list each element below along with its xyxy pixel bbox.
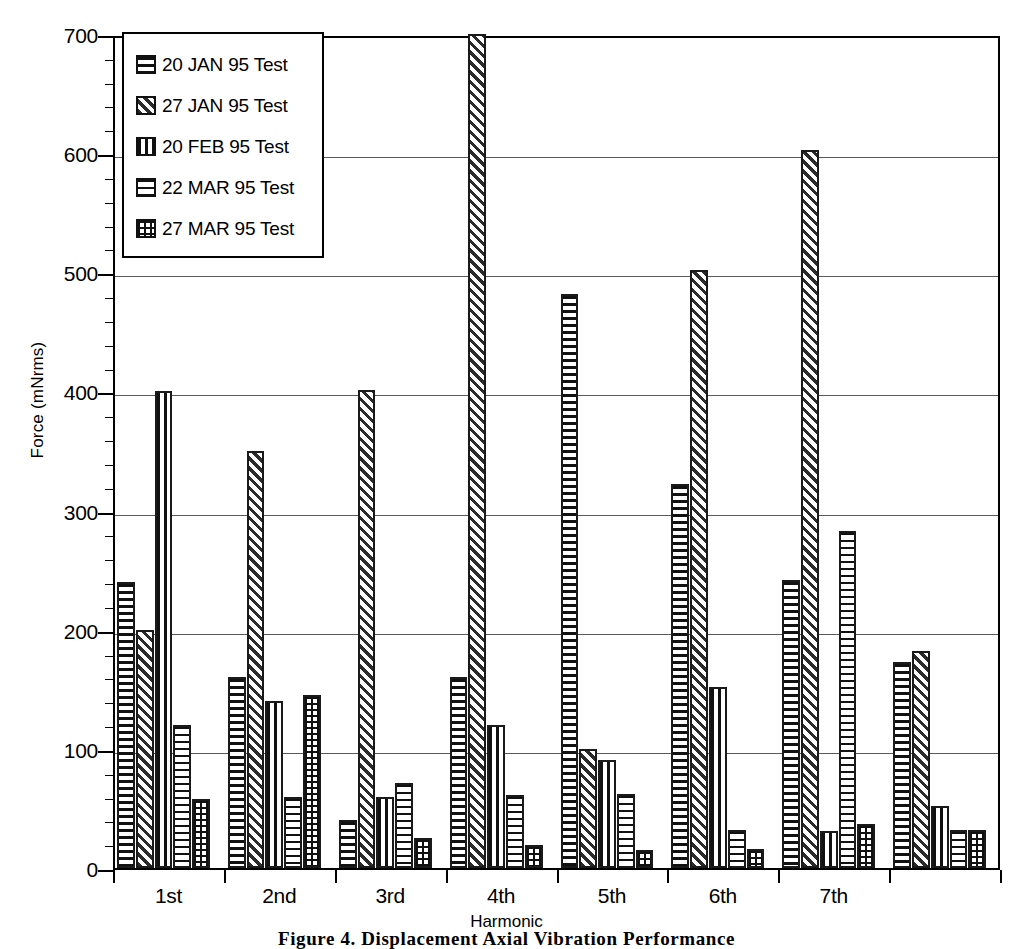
y-tick-label: 700	[40, 25, 98, 46]
legend-label: 27 MAR 95 Test	[162, 218, 294, 240]
bar	[339, 820, 357, 868]
x-tick-mark	[113, 870, 115, 883]
x-tick-label: 5th	[567, 884, 657, 908]
y-axis-tick-labels: 0100200300400500600700	[36, 0, 98, 949]
y-tick-minor	[105, 656, 113, 657]
bar-group	[561, 38, 655, 868]
bar	[450, 677, 468, 868]
y-tick-minor	[105, 822, 113, 823]
bar	[579, 749, 597, 868]
y-tick-minor	[105, 250, 113, 251]
y-tick-label: 500	[40, 263, 98, 284]
x-tick-label: 2nd	[234, 884, 324, 908]
bar	[617, 794, 635, 868]
y-tick-minor	[105, 489, 113, 490]
x-tick-label: 3rd	[345, 884, 435, 908]
legend-swatch-icon	[136, 219, 156, 238]
bar	[284, 797, 302, 868]
y-tick-minor	[105, 703, 113, 704]
y-tick-minor	[105, 536, 113, 537]
y-tick-label: 100	[40, 740, 98, 761]
y-tick-major	[98, 632, 113, 634]
legend-label: 27 JAN 95 Test	[162, 95, 288, 117]
x-tick-label: 4th	[456, 884, 546, 908]
y-tick-minor	[105, 584, 113, 585]
y-tick-minor	[105, 203, 113, 204]
legend-item: 20 JAN 95 Test	[136, 44, 322, 85]
y-tick-minor	[105, 846, 113, 847]
bar	[950, 830, 968, 868]
bar	[912, 651, 930, 868]
y-tick-minor	[105, 465, 113, 466]
legend-item: 27 JAN 95 Test	[136, 85, 322, 126]
y-tick-label: 300	[40, 502, 98, 523]
x-tick-mark	[778, 870, 780, 883]
bar	[525, 845, 543, 868]
legend-swatch-icon	[136, 96, 156, 115]
bar-group	[339, 38, 433, 868]
bar	[820, 831, 838, 868]
y-tick-major	[98, 155, 113, 157]
bar	[414, 838, 432, 868]
y-tick-minor	[105, 560, 113, 561]
legend-item: 20 FEB 95 Test	[136, 126, 322, 167]
bar	[709, 687, 727, 868]
y-tick-label: 600	[40, 144, 98, 165]
figure-container: Force (mNrms) 0100200300400500600700 1st…	[0, 0, 1013, 949]
y-tick-minor	[105, 179, 113, 180]
bar	[857, 824, 875, 868]
y-tick-minor	[105, 107, 113, 108]
legend-label: 22 MAR 95 Test	[162, 177, 294, 199]
x-tick-mark	[446, 870, 448, 883]
y-tick-major	[98, 274, 113, 276]
y-tick-minor	[105, 608, 113, 609]
x-tick-mark	[1000, 870, 1002, 883]
bar	[728, 830, 746, 868]
bar	[839, 531, 857, 868]
y-tick-minor	[105, 84, 113, 85]
y-tick-major	[98, 513, 113, 515]
y-tick-label: 400	[40, 382, 98, 403]
legend-swatch-icon	[136, 178, 156, 197]
bar	[487, 725, 505, 868]
legend-swatch-icon	[136, 137, 156, 156]
bar	[265, 701, 283, 868]
bar	[598, 760, 616, 868]
bar	[228, 677, 246, 868]
y-tick-minor	[105, 298, 113, 299]
y-tick-minor	[105, 227, 113, 228]
x-tick-label: 1st	[123, 884, 213, 908]
bar	[247, 451, 265, 868]
bar	[801, 150, 819, 868]
bar	[968, 830, 986, 868]
y-tick-major	[98, 870, 113, 872]
chart-legend: 20 JAN 95 Test27 JAN 95 Test20 FEB 95 Te…	[122, 32, 324, 258]
bar	[303, 695, 321, 868]
bar	[782, 580, 800, 868]
bar	[395, 783, 413, 868]
x-tick-label: 6th	[678, 884, 768, 908]
legend-swatch-icon	[136, 55, 156, 74]
y-tick-minor	[105, 775, 113, 776]
legend-label: 20 FEB 95 Test	[162, 136, 289, 158]
bar	[376, 797, 394, 868]
bar	[561, 294, 579, 868]
y-tick-label: 0	[40, 859, 98, 880]
bar	[931, 806, 949, 868]
y-tick-minor	[105, 679, 113, 680]
bar-group	[893, 38, 987, 868]
x-tick-mark	[335, 870, 337, 883]
y-tick-minor	[105, 799, 113, 800]
x-tick-mark	[224, 870, 226, 883]
y-tick-label: 200	[40, 621, 98, 642]
figure-caption: Figure 4. Displacement Axial Vibration P…	[0, 928, 1013, 949]
y-tick-minor	[105, 417, 113, 418]
bar	[358, 390, 376, 868]
bar	[173, 725, 191, 868]
y-tick-major	[98, 751, 113, 753]
bar-group	[671, 38, 765, 868]
y-tick-minor	[105, 322, 113, 323]
legend-label: 20 JAN 95 Test	[162, 54, 288, 76]
y-tick-minor	[105, 131, 113, 132]
legend-item: 22 MAR 95 Test	[136, 167, 322, 208]
